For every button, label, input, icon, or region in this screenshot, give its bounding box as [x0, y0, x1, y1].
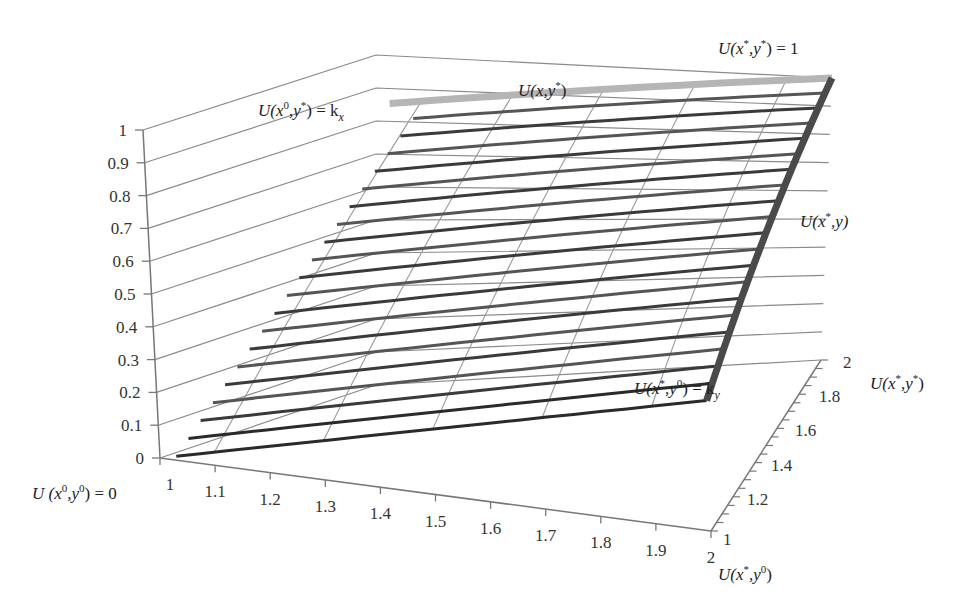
y-tick-label: 1.8 [819, 387, 840, 406]
surface-crossline [433, 89, 604, 429]
x-tick-label: 1.1 [204, 482, 225, 501]
x-tick-label: 1.4 [370, 504, 392, 523]
z-tick-label: 0 [136, 449, 145, 468]
floor-back-line [376, 360, 821, 385]
z-tick-label: 0.2 [119, 383, 140, 402]
gridline-z-0.7 [148, 154, 829, 228]
y-tick-label: 1.4 [771, 456, 793, 475]
z-tick-label: 0.6 [113, 252, 134, 271]
label-top-center: U(x,y*) [518, 79, 566, 100]
surface-series-line [362, 154, 798, 189]
x-tick-label: 1 [166, 475, 175, 494]
x-axis-title: U(x*,y0) [718, 563, 772, 584]
label-top-left: U(x0,y*) = kx [258, 99, 345, 124]
y-tick-label: 2 [843, 353, 852, 372]
z-tick-label: 0.9 [107, 154, 128, 173]
surface-lines [176, 78, 832, 456]
x-tick-label: 2 [707, 548, 716, 567]
x-tick-label: 1.3 [315, 497, 336, 516]
surface-chart: 00.10.20.30.40.50.60.70.80.9111.11.21.31… [0, 0, 970, 615]
gridline-z-0.6 [150, 187, 828, 261]
y-tick-label: 1.6 [795, 421, 816, 440]
z-tick-label: 0.5 [114, 285, 135, 304]
y-tick-label: 1 [723, 530, 732, 549]
y-tick-label: 1.2 [747, 490, 768, 509]
z-tick-label: 0.7 [111, 219, 133, 238]
x-tick-label: 1.7 [535, 526, 557, 545]
label-top-right: U(x*,y*) = 1 [718, 37, 799, 58]
x-tick-label: 1.8 [590, 533, 611, 552]
z-tick-label: 1 [119, 121, 128, 140]
label-right-mid: U(x*,y) [800, 210, 849, 231]
label-origin: U (x0,y0) = 0 [32, 482, 117, 503]
z-tick-label: 0.4 [116, 318, 138, 337]
z-tick-label: 0.1 [121, 416, 142, 435]
z-tick-label: 0.8 [109, 187, 130, 206]
x-tick-label: 1.6 [480, 519, 501, 538]
x-tick-label: 1.2 [260, 490, 281, 509]
x-tick-label: 1.5 [425, 512, 446, 531]
x-tick-label: 1.9 [645, 541, 666, 560]
y-axis-title: U(x*,y*) [870, 372, 924, 393]
z-tick-label: 0.3 [118, 351, 139, 370]
